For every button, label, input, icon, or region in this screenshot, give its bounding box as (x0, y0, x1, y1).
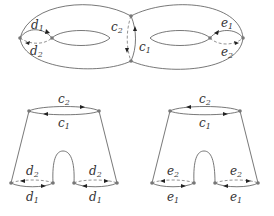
arrow-c1 (133, 26, 137, 31)
label-d1: d1 (26, 190, 39, 205)
point (208, 36, 212, 40)
label-c1: c1 (58, 116, 70, 131)
leg-left-d2 (11, 180, 53, 183)
label-c1: c1 (199, 116, 211, 131)
point (213, 181, 217, 185)
leg-right-d1 (74, 183, 117, 187)
label-e1: e1 (167, 190, 179, 205)
point (241, 36, 245, 40)
curve-c2 (127, 16, 131, 61)
arrow-leg-right-e2 (246, 179, 251, 183)
arrow-waist-c2 (80, 105, 85, 109)
arrow-e1 (214, 30, 219, 35)
arrow-waist-c1 (223, 112, 228, 116)
point (97, 109, 101, 113)
arrow-leg-left-d1 (41, 184, 46, 188)
leg-right-d2 (74, 180, 117, 183)
label-d2: d2 (89, 164, 102, 179)
label-d1: d1 (31, 18, 44, 33)
left-hole (52, 31, 110, 46)
arrow-waist-c1 (43, 112, 48, 116)
genus-two-surface: d1 d2 c2 c1 e1 e2 (18, 5, 245, 70)
arrow-leg-left-d2 (20, 179, 25, 183)
waist-c1 (29, 111, 99, 115)
point (150, 181, 154, 185)
label-e1: e1 (230, 190, 242, 205)
leg-left-e2 (152, 180, 194, 183)
waist-c1 (170, 111, 240, 115)
arrow-d1 (45, 29, 50, 34)
point (129, 59, 133, 63)
arrow-leg-right-d1 (82, 184, 87, 188)
diagram-canvas: d1 d2 c2 c1 e1 e2 c2 c1 d2 d1 d2 d1 (0, 0, 274, 216)
point (18, 36, 22, 40)
point (50, 36, 54, 40)
arrow-waist-c2 (186, 105, 191, 109)
point (256, 181, 260, 185)
point (27, 109, 31, 113)
curve-c1 (131, 16, 136, 61)
waist-c2 (29, 107, 99, 112)
pants-right: c2 c1 e2 e1 e2 e1 (150, 92, 260, 205)
point (192, 181, 196, 185)
waist-c2 (170, 107, 240, 112)
label-e2: e2 (221, 45, 233, 60)
point (72, 181, 76, 185)
point (238, 109, 242, 113)
point (51, 181, 55, 185)
point (115, 181, 119, 185)
point (9, 181, 13, 185)
side-right (240, 111, 258, 183)
arrow-leg-left-e2 (160, 179, 165, 183)
right-hole (150, 31, 210, 46)
leg-right-e1 (215, 183, 258, 187)
leg-right-e2 (215, 180, 258, 183)
pants-left: c2 c1 d2 d1 d2 d1 (9, 92, 119, 205)
point (168, 109, 172, 113)
label-c2: c2 (58, 92, 70, 107)
label-d2: d2 (30, 44, 43, 59)
label-d2: d2 (26, 164, 39, 179)
arrow-e2 (234, 41, 239, 45)
crotch (194, 151, 215, 183)
label-d1: d1 (89, 190, 102, 205)
arrow-leg-right-e1 (223, 184, 228, 188)
crotch (53, 151, 74, 183)
leg-left-e1 (152, 183, 194, 187)
curve-e1 (210, 31, 243, 39)
outer-boundary-right (131, 5, 243, 70)
label-c2: c2 (111, 20, 123, 35)
curve-d2 (20, 38, 52, 43)
arrow-leg-right-d2 (104, 179, 109, 183)
leg-left-d1 (11, 183, 53, 187)
label-e2: e2 (230, 164, 242, 179)
label-e2: e2 (167, 164, 179, 179)
label-c2: c2 (199, 92, 211, 107)
label-c1: c1 (139, 40, 151, 55)
point (129, 14, 133, 18)
arrow-leg-left-e1 (181, 184, 186, 188)
outer-boundary-left (20, 5, 131, 69)
